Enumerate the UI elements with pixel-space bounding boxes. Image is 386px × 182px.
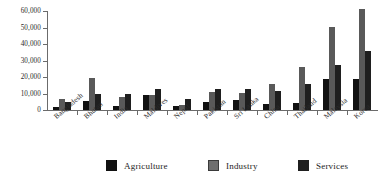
x-axis-tick — [197, 111, 198, 115]
legend-label: Agriculture — [124, 161, 168, 171]
bar-group — [347, 11, 377, 110]
plot-area — [47, 11, 377, 110]
legend-swatch-services-icon — [298, 160, 309, 171]
y-axis-tick-label: 10,000 — [0, 90, 41, 98]
x-axis-tick — [287, 111, 288, 115]
x-axis-tick — [167, 111, 168, 115]
x-axis-tick — [137, 111, 138, 115]
y-axis-tick-label: 60,000 — [0, 7, 41, 15]
bar-group — [167, 11, 197, 110]
legend-item-services: Services — [298, 160, 348, 171]
x-axis-tick — [227, 111, 228, 115]
legend-swatch-agriculture-icon — [106, 160, 117, 171]
bar-group — [257, 11, 287, 110]
bar-chart-figure: 010,00020,00030,00040,00050,00060,000 Ba… — [0, 0, 386, 182]
bar-group — [197, 11, 227, 110]
legend-label: Industry — [226, 161, 258, 171]
x-axis-tick — [347, 111, 348, 115]
chart-legend: AgricultureIndustryServices — [0, 160, 386, 176]
bar-group — [107, 11, 137, 110]
x-axis-tick — [257, 111, 258, 115]
y-axis-tick-label: 40,000 — [0, 40, 41, 48]
legend-label: Services — [316, 161, 348, 171]
y-axis-tick-label: 30,000 — [0, 57, 41, 65]
y-axis-tick-label: 50,000 — [0, 24, 41, 32]
bar-group — [287, 11, 317, 110]
x-axis-tick — [77, 111, 78, 115]
legend-swatch-industry-icon — [208, 160, 219, 171]
legend-item-industry: Industry — [208, 160, 258, 171]
y-axis-tick-label: 20,000 — [0, 73, 41, 81]
y-axis-tick-label: 0 — [0, 106, 41, 114]
x-axis-tick — [107, 111, 108, 115]
legend-item-agriculture: Agriculture — [106, 160, 168, 171]
x-axis-tick — [317, 111, 318, 115]
